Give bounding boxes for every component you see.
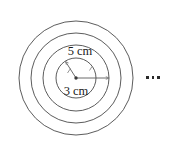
ellipsis-dot-1: [146, 76, 149, 79]
ellipsis-dot-2: [152, 76, 155, 79]
center-point: [74, 76, 77, 79]
concentric-circles-diagram: 5 cm 3 cm: [0, 0, 170, 155]
outer-radius-line: [66, 62, 77, 79]
ellipsis-dot-3: [157, 76, 160, 79]
inner-radius-label: 3 cm: [64, 84, 89, 98]
inner-radius-tick-mark: [68, 69, 71, 74]
outer-radius-label: 5 cm: [68, 44, 93, 58]
inner-circle-tick-mark: [90, 67, 93, 71]
ellipsis: [146, 76, 160, 79]
